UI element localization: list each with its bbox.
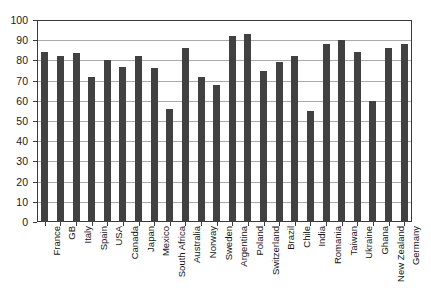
x-tick-mark	[60, 222, 61, 226]
y-tick-label: 50	[16, 116, 28, 127]
y-tick-label: 80	[16, 55, 28, 66]
x-tick-label-text: India	[317, 226, 327, 247]
x-tick-label: Poland	[252, 196, 262, 226]
x-tick-label-text: Poland	[254, 226, 264, 256]
bar	[151, 68, 158, 222]
y-tick-label: 30	[16, 156, 28, 167]
x-tick-mark	[154, 222, 155, 226]
bar	[119, 67, 126, 222]
y-tick-mark	[33, 222, 37, 223]
x-tick-mark	[279, 222, 280, 226]
x-tick-label: Mexico	[158, 196, 168, 226]
x-tick-label: Australia	[189, 189, 199, 226]
x-tick-mark	[232, 222, 233, 226]
x-tick-mark	[107, 222, 108, 226]
bar	[323, 44, 330, 222]
x-tick-label: Ghana	[377, 197, 387, 226]
x-tick-mark	[123, 222, 124, 226]
x-tick-mark	[139, 222, 140, 226]
x-tick-mark	[342, 222, 343, 226]
x-tick-label: GB	[64, 212, 74, 226]
bar	[198, 77, 205, 222]
bar	[291, 56, 298, 222]
x-tick-label-text: Spain	[98, 226, 108, 250]
y-tick-label: 40	[16, 136, 28, 147]
x-tick-mark	[45, 222, 46, 226]
x-tick-label: Chile	[299, 204, 309, 226]
y-tick-label: 70	[16, 75, 28, 86]
x-tick-label-text: Argentina	[239, 226, 249, 267]
bar-chart: 0102030405060708090100 FranceGBItalySpai…	[0, 0, 431, 288]
x-tick-label: Sweden	[221, 192, 231, 226]
bar	[73, 53, 80, 222]
x-tick-label: India	[314, 205, 324, 226]
x-tick-label: Ukraine	[361, 193, 371, 226]
x-tick-label: Spain	[96, 202, 106, 226]
y-tick-label: 100	[10, 15, 28, 26]
x-tick-label-text: New Zealand	[395, 226, 405, 282]
x-tick-mark	[201, 222, 202, 226]
x-tick-mark	[248, 222, 249, 226]
x-tick-label-text: USA	[114, 226, 124, 246]
x-tick-mark	[295, 222, 296, 226]
x-tick-label: Norway	[205, 194, 215, 226]
y-tick-label: 60	[16, 96, 28, 107]
x-tick-mark	[92, 222, 93, 226]
x-tick-mark	[185, 222, 186, 226]
x-tick-label-text: France	[51, 226, 61, 256]
y-axis: 0102030405060708090100	[0, 20, 33, 222]
x-tick-label: Japan	[143, 200, 153, 226]
x-tick-label: USA	[111, 206, 121, 226]
x-tick-label-text: Sweden	[223, 226, 233, 260]
x-tick-label: Brazil	[283, 202, 293, 226]
x-tick-mark	[404, 222, 405, 226]
x-tick-label: Italy	[80, 209, 90, 226]
x-tick-mark	[373, 222, 374, 226]
bar	[41, 52, 48, 222]
x-tick-label-text: Australia	[192, 226, 202, 263]
bar	[385, 48, 392, 222]
x-tick-label-text: Romania	[333, 226, 343, 264]
x-tick-label: Taiwan	[346, 196, 356, 226]
x-tick-label-text: Brazil	[286, 226, 296, 250]
x-tick-mark	[217, 222, 218, 226]
bar	[104, 60, 111, 222]
y-tick-label: 10	[16, 197, 28, 208]
bar	[88, 77, 95, 222]
x-axis: FranceGBItalySpainUSACanadaJapanMexicoSo…	[37, 226, 412, 288]
x-tick-label: France	[49, 196, 59, 226]
x-tick-mark	[76, 222, 77, 226]
x-tick-label-text: Ghana	[379, 226, 389, 255]
x-tick-mark	[170, 222, 171, 226]
x-tick-label-text: Italy	[83, 226, 93, 243]
x-tick-label-text: GB	[67, 226, 77, 240]
x-tick-label: Romania	[330, 188, 340, 226]
x-tick-label-text: Canada	[129, 226, 139, 259]
x-tick-label: Canada	[127, 193, 137, 226]
x-tick-mark	[326, 222, 327, 226]
x-tick-label-text: Taiwan	[348, 226, 358, 256]
x-tick-label-text: Norway	[208, 226, 218, 258]
y-tick-label: 90	[16, 35, 28, 46]
x-tick-mark	[310, 222, 311, 226]
x-tick-mark	[264, 222, 265, 226]
x-tick-label-text: Chile	[301, 226, 311, 248]
x-tick-label: Germany	[408, 187, 418, 226]
x-tick-label: Switzerland	[268, 177, 278, 226]
x-tick-mark	[357, 222, 358, 226]
x-tick-label: Argentina	[236, 185, 246, 226]
y-tick-label: 0	[22, 217, 28, 228]
x-tick-label-text: South Africa	[176, 226, 186, 277]
x-tick-label-text: Ukraine	[364, 226, 374, 259]
x-tick-label-text: Switzerland	[270, 226, 280, 275]
x-tick-label: South Africa	[174, 175, 184, 226]
x-tick-label-text: Japan	[145, 226, 155, 252]
x-tick-mark	[389, 222, 390, 226]
x-tick-label-text: Mexico	[161, 226, 171, 256]
y-tick-label: 20	[16, 176, 28, 187]
x-tick-label-text: Germany	[411, 226, 421, 265]
x-tick-label: New Zealand	[393, 170, 403, 226]
